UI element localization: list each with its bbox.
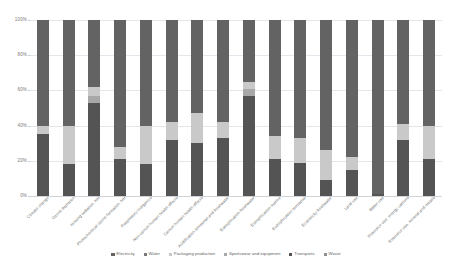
x-axis-label-text: Resource use, mineral and metals <box>388 196 436 244</box>
bar-segment[interactable] <box>372 20 384 194</box>
x-axis-label-text: Non-cancer human health effects <box>132 196 179 243</box>
stacked-bar-chart: 0%20%40%60%80%100% Climate changeOzone d… <box>0 0 452 273</box>
bar-segment[interactable] <box>114 20 126 147</box>
bar-segment[interactable] <box>243 20 255 82</box>
bar-segment[interactable] <box>320 180 332 196</box>
bar-segment[interactable] <box>114 159 126 196</box>
bar-stack <box>372 20 384 196</box>
legend-item[interactable]: Electricity <box>111 252 134 256</box>
bar-segment[interactable] <box>37 20 49 126</box>
legend-item[interactable]: Waste <box>324 252 341 256</box>
bar-group[interactable] <box>243 20 255 196</box>
x-axis-label: Climate change <box>26 196 50 220</box>
bar-group[interactable] <box>269 20 281 196</box>
bar-stack <box>346 20 358 196</box>
bar-stack <box>217 20 229 196</box>
bar-segment[interactable] <box>63 20 75 126</box>
bar-segment[interactable] <box>346 20 358 157</box>
x-axis-label: Ozone depletion <box>51 196 76 221</box>
bar-segment[interactable] <box>423 126 435 159</box>
y-axis-tick-label: 40% <box>18 123 28 128</box>
bar-group[interactable] <box>166 20 178 196</box>
bar-segment[interactable] <box>346 170 358 196</box>
bar-segment[interactable] <box>243 89 255 96</box>
bar-segment[interactable] <box>423 159 435 196</box>
bar-segment[interactable] <box>294 138 306 163</box>
bar-segment[interactable] <box>63 164 75 196</box>
bar-group[interactable] <box>114 20 126 196</box>
bar-segment[interactable] <box>269 20 281 136</box>
bar-segment[interactable] <box>243 96 255 196</box>
bar-group[interactable] <box>294 20 306 196</box>
bar-group[interactable] <box>346 20 358 196</box>
bar-segment[interactable] <box>217 20 229 122</box>
bar-group[interactable] <box>140 20 152 196</box>
x-axis-label-text: Land use <box>344 196 359 211</box>
bar-segment[interactable] <box>294 163 306 196</box>
bar-segment[interactable] <box>397 20 409 124</box>
legend-item[interactable]: Transports <box>289 252 314 256</box>
x-axis-labels: Climate changeOzone depletionIonising ra… <box>30 196 442 248</box>
bar-segment[interactable] <box>63 126 75 165</box>
legend-item-label: Waste <box>329 252 341 256</box>
bar-stack <box>294 20 306 196</box>
bar-segment[interactable] <box>88 20 100 87</box>
bar-segment[interactable] <box>217 122 229 138</box>
bar-segment[interactable] <box>191 143 203 196</box>
bar-segment[interactable] <box>346 157 358 169</box>
legend-swatch-icon <box>224 253 227 256</box>
legend-swatch-icon <box>144 253 147 256</box>
bar-segment[interactable] <box>88 87 100 96</box>
x-axis-label: Water use <box>368 196 384 212</box>
bar-segment[interactable] <box>166 140 178 196</box>
legend-swatch-icon <box>111 253 114 256</box>
chart-legend: ElectricityWaterPackaging productionSpor… <box>0 252 452 256</box>
bar-segment[interactable] <box>140 126 152 165</box>
bar-segment[interactable] <box>294 20 306 138</box>
bar-segment[interactable] <box>320 150 332 180</box>
bar-segment[interactable] <box>140 164 152 196</box>
bar-group[interactable] <box>320 20 332 196</box>
bar-segment[interactable] <box>88 103 100 196</box>
bar-segment[interactable] <box>217 138 229 196</box>
bar-segment[interactable] <box>140 20 152 126</box>
bar-stack <box>423 20 435 196</box>
bar-group[interactable] <box>423 20 435 196</box>
x-axis-label: Acidification terrestrial and freshwater <box>177 196 230 249</box>
bar-stack <box>166 20 178 196</box>
bar-group[interactable] <box>191 20 203 196</box>
bar-group[interactable] <box>397 20 409 196</box>
legend-swatch-icon <box>169 253 172 256</box>
x-axis-label: Photochemical ozone formation, HH <box>77 196 127 246</box>
y-axis-tick-label: 100% <box>15 18 27 23</box>
legend-item-label: Transports <box>294 252 314 256</box>
legend-item-label: Sportswear and equipment <box>229 252 280 256</box>
bar-segment[interactable] <box>320 20 332 150</box>
bar-segment[interactable] <box>191 20 203 113</box>
y-axis-tick-label: 20% <box>18 159 28 164</box>
bar-group[interactable] <box>372 20 384 196</box>
bar-segment[interactable] <box>397 124 409 140</box>
bar-segment[interactable] <box>37 134 49 196</box>
bar-segment[interactable] <box>423 20 435 126</box>
legend-item[interactable]: Packaging production <box>169 252 215 256</box>
bar-segment[interactable] <box>269 159 281 196</box>
bar-group[interactable] <box>217 20 229 196</box>
bar-segment[interactable] <box>243 82 255 89</box>
bar-group[interactable] <box>63 20 75 196</box>
bar-segment[interactable] <box>88 96 100 103</box>
bar-segment[interactable] <box>397 140 409 196</box>
bar-segment[interactable] <box>37 126 49 135</box>
bar-group[interactable] <box>88 20 100 196</box>
bars-layer <box>30 20 442 196</box>
bar-segment[interactable] <box>166 122 178 140</box>
bar-segment[interactable] <box>269 136 281 159</box>
legend-item-label: Water <box>149 252 160 256</box>
bar-segment[interactable] <box>191 113 203 143</box>
legend-item[interactable]: Sportswear and equipment <box>224 252 280 256</box>
legend-item[interactable]: Water <box>144 252 160 256</box>
bar-group[interactable] <box>37 20 49 196</box>
bar-segment[interactable] <box>114 147 126 159</box>
bar-segment[interactable] <box>166 20 178 122</box>
plot-area: 0%20%40%60%80%100% <box>30 20 442 196</box>
